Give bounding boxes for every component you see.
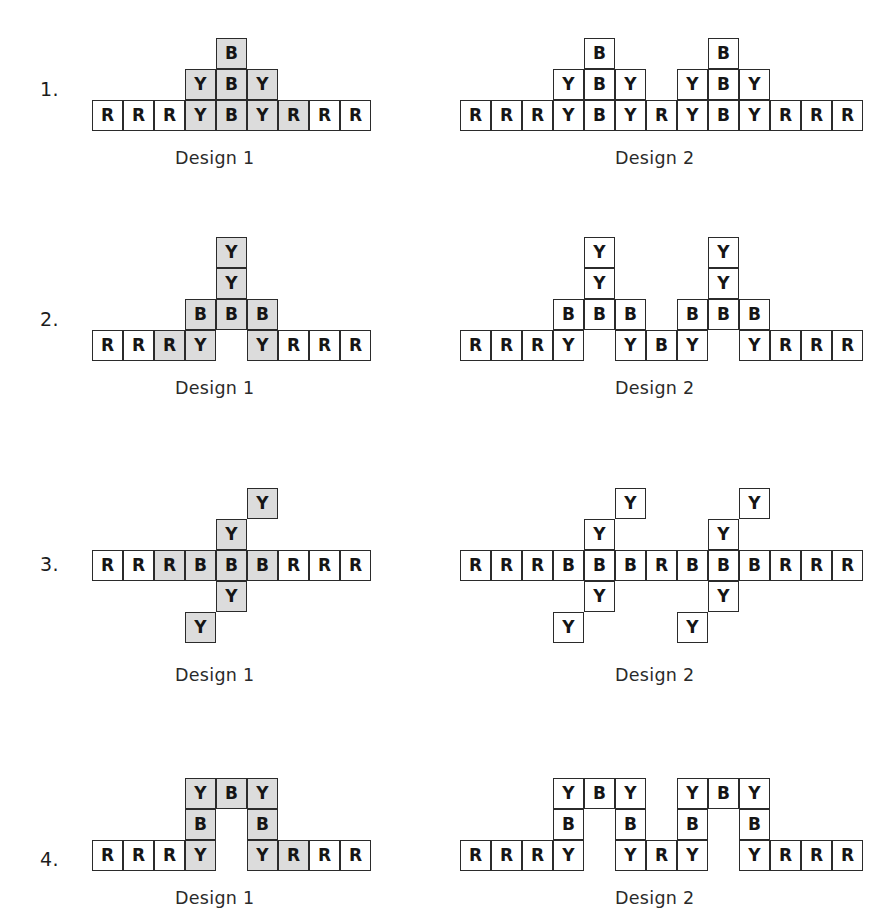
pattern-cell: Y [185, 69, 216, 100]
pattern-cell: R [309, 100, 340, 131]
design-label: Design 1 [175, 148, 255, 168]
pattern-cell: B [646, 330, 677, 361]
pattern-cell: Y [216, 237, 247, 268]
pattern-cell: B [739, 550, 770, 581]
pattern-cell: R [770, 840, 801, 871]
pattern-cell: Y [247, 330, 278, 361]
pattern-cell: R [801, 550, 832, 581]
problem-number: 2. [40, 308, 59, 330]
pattern-cell: Y [739, 69, 770, 100]
pattern-cell: B [584, 69, 615, 100]
design-label: Design 2 [615, 148, 695, 168]
pattern-cell: R [522, 330, 553, 361]
design-label: Design 1 [175, 665, 255, 685]
pattern-cell: R [123, 330, 154, 361]
pattern-cell: Y [216, 581, 247, 612]
pattern-cell: Y [185, 330, 216, 361]
pattern-cell: R [278, 550, 309, 581]
pattern-cell: R [832, 330, 863, 361]
pattern-cell: Y [216, 519, 247, 550]
pattern-cell: R [770, 100, 801, 131]
design-label: Design 2 [615, 378, 695, 398]
problem-number: 1. [40, 78, 59, 100]
pattern-cell: R [832, 840, 863, 871]
pattern-cell: R [646, 100, 677, 131]
pattern-cell: Y [739, 100, 770, 131]
pattern-cell: R [491, 550, 522, 581]
pattern-cell: R [278, 840, 309, 871]
pattern-cell: Y [247, 100, 278, 131]
pattern-cell: B [216, 100, 247, 131]
pattern-cell: B [739, 299, 770, 330]
pattern-cell: Y [553, 330, 584, 361]
pattern-cell: B [216, 69, 247, 100]
pattern-cell: R [154, 100, 185, 131]
pattern-cell: Y [677, 330, 708, 361]
pattern-cell: R [123, 550, 154, 581]
pattern-cell: Y [615, 100, 646, 131]
pattern-cell: B [584, 38, 615, 69]
design-label: Design 1 [175, 888, 255, 908]
pattern-cell: B [584, 100, 615, 131]
design-label: Design 1 [175, 378, 255, 398]
pattern-cell: B [708, 38, 739, 69]
pattern-cell: Y [584, 519, 615, 550]
pattern-cell: Y [553, 840, 584, 871]
pattern-cell: B [216, 299, 247, 330]
pattern-cell: Y [615, 840, 646, 871]
pattern-cell: R [309, 840, 340, 871]
pattern-cell: R [123, 100, 154, 131]
pattern-cell: Y [584, 268, 615, 299]
worksheet-canvas: 1.RRRYBYRRRYBYBDesign 1RRRYBYRYBYRRRYBYY… [0, 0, 888, 922]
pattern-cell: B [584, 778, 615, 809]
pattern-cell: B [615, 550, 646, 581]
pattern-cell: B [708, 778, 739, 809]
pattern-cell: R [832, 100, 863, 131]
pattern-cell: B [553, 550, 584, 581]
pattern-cell: Y [553, 100, 584, 131]
pattern-cell: B [247, 550, 278, 581]
pattern-cell: Y [708, 237, 739, 268]
pattern-cell: R [309, 330, 340, 361]
pattern-cell: R [646, 840, 677, 871]
pattern-cell: Y [247, 69, 278, 100]
pattern-cell: B [708, 550, 739, 581]
pattern-cell: R [832, 550, 863, 581]
pattern-cell: R [460, 840, 491, 871]
pattern-cell: Y [247, 840, 278, 871]
pattern-cell: R [522, 100, 553, 131]
pattern-cell: B [553, 299, 584, 330]
design-label: Design 2 [615, 888, 695, 908]
pattern-cell: Y [185, 840, 216, 871]
pattern-cell: B [708, 299, 739, 330]
pattern-cell: R [801, 330, 832, 361]
pattern-cell: Y [708, 519, 739, 550]
pattern-cell: R [309, 550, 340, 581]
pattern-cell: Y [739, 488, 770, 519]
problem-number: 4. [40, 848, 59, 870]
pattern-cell: Y [553, 778, 584, 809]
pattern-cell: Y [584, 237, 615, 268]
pattern-cell: R [491, 100, 522, 131]
pattern-cell: Y [677, 840, 708, 871]
pattern-cell: Y [553, 612, 584, 643]
pattern-cell: R [340, 100, 371, 131]
pattern-cell: R [770, 330, 801, 361]
pattern-cell: B [216, 778, 247, 809]
pattern-cell: R [92, 100, 123, 131]
pattern-cell: R [92, 330, 123, 361]
problem-number: 3. [40, 553, 59, 575]
pattern-cell: R [278, 330, 309, 361]
pattern-cell: R [340, 840, 371, 871]
pattern-cell: B [216, 38, 247, 69]
pattern-cell: Y [615, 69, 646, 100]
pattern-cell: B [677, 550, 708, 581]
pattern-cell: Y [677, 612, 708, 643]
pattern-cell: B [615, 809, 646, 840]
pattern-cell: R [646, 550, 677, 581]
pattern-cell: R [460, 550, 491, 581]
pattern-cell: R [491, 840, 522, 871]
pattern-cell: B [739, 809, 770, 840]
pattern-cell: R [491, 330, 522, 361]
pattern-cell: B [216, 550, 247, 581]
